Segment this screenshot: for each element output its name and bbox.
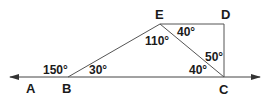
point-label-c: C [219,82,229,97]
point-label-d: D [221,7,230,22]
angle-label-ecd: 50° [205,50,223,64]
angle-label-bce: 40° [189,63,207,77]
angle-label-bec: 110° [145,34,169,48]
angle-label-ced: 40° [177,25,195,39]
angle-label-abe: 150° [43,63,68,77]
point-label-b: B [62,81,71,96]
angle-label-ebc: 30° [89,63,107,77]
diagram-svg: A B C D E 150° 30° 110° 40° 40° 50° [0,0,269,98]
point-label-a: A [26,81,36,96]
geometry-diagram: A B C D E 150° 30° 110° 40° 40° 50° [0,0,269,98]
segment-be [68,24,160,77]
point-label-e: E [155,7,164,22]
